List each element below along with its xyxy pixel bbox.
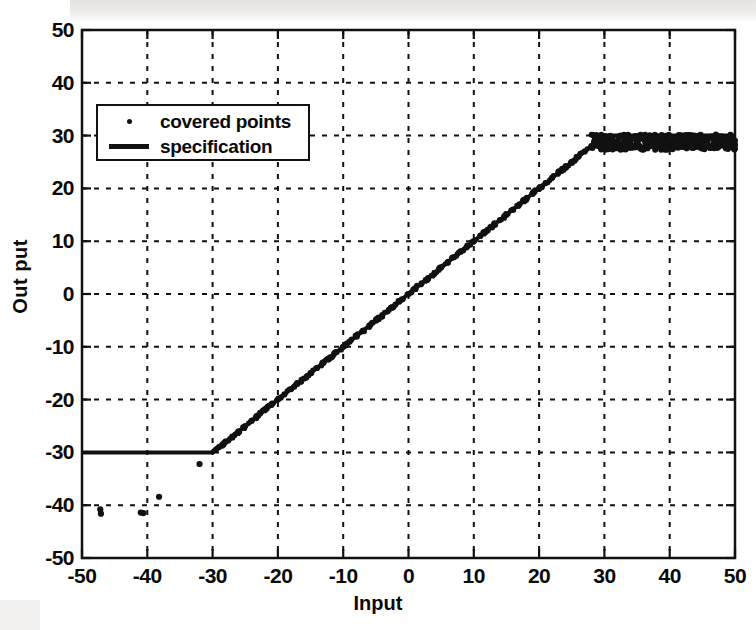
data-point bbox=[291, 384, 296, 389]
data-point bbox=[266, 403, 271, 408]
data-point bbox=[690, 138, 696, 144]
data-point bbox=[304, 374, 309, 379]
data-point bbox=[220, 443, 225, 448]
y-tick-label: -40 bbox=[18, 493, 74, 517]
data-point bbox=[156, 494, 162, 500]
data-point bbox=[683, 132, 689, 138]
plot-canvas bbox=[0, 0, 756, 630]
data-point bbox=[530, 191, 535, 196]
data-point bbox=[355, 331, 360, 336]
data-point bbox=[471, 239, 476, 244]
x-tick-label: 50 bbox=[724, 564, 746, 588]
data-point bbox=[537, 184, 542, 189]
y-axis-label: Out put bbox=[9, 239, 31, 314]
x-tick-label: 30 bbox=[593, 564, 615, 588]
data-point bbox=[624, 135, 630, 141]
data-point bbox=[374, 318, 379, 323]
data-point bbox=[282, 392, 287, 397]
data-point bbox=[418, 282, 423, 287]
data-point bbox=[275, 396, 280, 401]
x-tick-label: -20 bbox=[263, 564, 292, 588]
data-point bbox=[299, 379, 304, 384]
legend-label-specification: specification bbox=[160, 136, 272, 158]
data-point bbox=[196, 461, 202, 467]
legend-item-covered-points: covered points bbox=[98, 109, 308, 134]
data-point bbox=[551, 173, 556, 178]
data-point bbox=[450, 254, 455, 259]
data-point bbox=[525, 196, 530, 201]
data-point bbox=[380, 314, 385, 319]
data-point bbox=[440, 263, 445, 268]
data-point bbox=[464, 245, 469, 250]
data-point bbox=[633, 135, 639, 141]
x-tick-label: 40 bbox=[659, 564, 681, 588]
data-point bbox=[98, 511, 104, 517]
data-point bbox=[574, 154, 579, 159]
y-tick-label: -20 bbox=[18, 388, 74, 412]
data-point bbox=[344, 340, 349, 345]
x-tick-label: -50 bbox=[68, 564, 97, 588]
data-point bbox=[725, 143, 731, 149]
legend-marker-line-icon bbox=[98, 144, 160, 149]
legend-item-specification: specification bbox=[98, 134, 308, 159]
data-point bbox=[308, 371, 313, 376]
data-point bbox=[330, 353, 335, 358]
data-point bbox=[636, 144, 642, 150]
y-axis-label-wrap: Out put bbox=[9, 197, 32, 357]
data-point bbox=[340, 345, 345, 350]
data-point bbox=[664, 147, 670, 153]
data-point bbox=[436, 268, 441, 273]
y-tick-label: 40 bbox=[18, 71, 74, 95]
data-point bbox=[410, 287, 415, 292]
data-point bbox=[652, 133, 658, 139]
data-point bbox=[676, 132, 682, 138]
data-point bbox=[480, 229, 485, 234]
data-point bbox=[714, 145, 720, 151]
data-point bbox=[589, 132, 595, 138]
data-point bbox=[520, 199, 525, 204]
data-point bbox=[510, 207, 515, 212]
data-point bbox=[258, 411, 263, 416]
data-point bbox=[591, 143, 596, 148]
data-point bbox=[140, 510, 146, 516]
data-point bbox=[598, 136, 603, 141]
data-point bbox=[568, 160, 573, 165]
data-point bbox=[708, 144, 714, 150]
data-point bbox=[615, 134, 621, 140]
data-point bbox=[488, 224, 493, 229]
x-tick-label: -30 bbox=[198, 564, 227, 588]
data-point bbox=[630, 143, 636, 149]
chart-figure: -50-40-30-20-1001020304050 -50-40-30-20-… bbox=[0, 0, 756, 630]
data-point bbox=[235, 429, 240, 434]
data-point bbox=[682, 144, 688, 150]
y-tick-label: -50 bbox=[18, 546, 74, 570]
data-point bbox=[248, 419, 253, 424]
data-point bbox=[608, 143, 614, 149]
legend-label-covered-points: covered points bbox=[160, 111, 291, 133]
data-point bbox=[424, 277, 429, 282]
data-point bbox=[579, 150, 584, 155]
y-tick-label: -30 bbox=[18, 440, 74, 464]
data-point bbox=[600, 143, 606, 149]
data-point bbox=[700, 136, 706, 142]
data-point bbox=[643, 140, 649, 146]
data-point bbox=[240, 424, 245, 429]
data-point bbox=[667, 139, 673, 145]
data-point bbox=[320, 360, 325, 365]
data-point bbox=[211, 448, 216, 453]
data-point bbox=[719, 140, 725, 146]
x-tick-label: 0 bbox=[403, 564, 414, 588]
legend-marker-dot-icon bbox=[98, 119, 160, 124]
data-point bbox=[614, 144, 620, 150]
data-point bbox=[620, 146, 626, 152]
data-point bbox=[397, 299, 402, 304]
chart-legend: covered points specification bbox=[96, 104, 310, 161]
data-point bbox=[561, 168, 566, 173]
data-point bbox=[294, 380, 299, 385]
data-point bbox=[585, 146, 590, 151]
y-tick-label: 50 bbox=[18, 18, 74, 42]
data-point bbox=[501, 213, 506, 218]
x-tick-label: 20 bbox=[528, 564, 550, 588]
data-point bbox=[368, 321, 373, 326]
data-point bbox=[731, 147, 737, 153]
